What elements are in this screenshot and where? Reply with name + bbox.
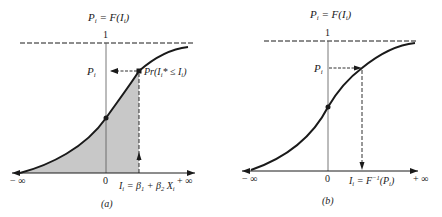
y-top-label: 1 [325, 27, 330, 38]
x-left-label: − ∞ [242, 173, 257, 184]
pi-label: Pi [313, 62, 323, 76]
x-left-label: − ∞ [10, 175, 25, 186]
panel-b: Pi = F(Ii) 1 Pi − ∞ 0 + ∞ Ii = F−1(Pi) (… [242, 8, 428, 207]
origin-point [326, 105, 331, 110]
inverse-formula: Ii = F−1(Pi) [348, 174, 395, 187]
x-origin-label: 0 [325, 173, 330, 184]
pi-label: Pi [86, 65, 96, 79]
down-arrow-icon [360, 162, 365, 170]
probability-point [137, 69, 142, 74]
x-right-label: + ∞ [413, 173, 428, 184]
panel-a: Pi = F(Ii) 1 Pi Pr(Ii* ≤ Ii) − ∞ 0 + ∞ I… [10, 11, 195, 210]
panel-a-title: Pi = F(Ii) [87, 11, 130, 25]
x-right-label: + ∞ [177, 175, 192, 186]
cdf-curve [251, 43, 415, 170]
origin-point [104, 116, 109, 121]
y-top-label: 1 [103, 29, 108, 40]
cdf-diagram: Pi = F(Ii) 1 Pi Pr(Ii* ≤ Ii) − ∞ 0 + ∞ I… [0, 0, 442, 217]
panel-b-caption: (b) [322, 195, 334, 207]
x-origin-label: 0 [103, 175, 108, 186]
panel-b-title: Pi = F(Ii) [309, 8, 352, 22]
panel-a-caption: (a) [101, 198, 113, 210]
probability-label: Pr(Ii* ≤ Ii) [143, 66, 187, 78]
shaded-probability-area [20, 71, 139, 173]
index-formula: Ii = β1 + β2 Xi [118, 180, 175, 192]
